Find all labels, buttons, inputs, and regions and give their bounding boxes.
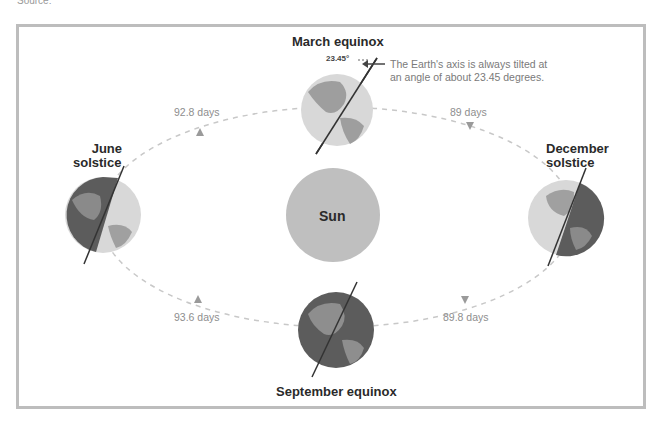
earth-december-solstice xyxy=(528,168,604,266)
interval-september-june: 93.6 days xyxy=(174,311,220,323)
tilt-note-line2: an angle of about 23.45 degrees. xyxy=(390,71,547,84)
label-march-equinox: March equinox xyxy=(292,34,384,49)
interval-december-september: 89.8 days xyxy=(443,311,489,323)
arrow-92-8 xyxy=(196,128,204,136)
label-december: December xyxy=(546,141,609,156)
interval-march-december: 89 days xyxy=(450,106,487,118)
tilt-note-line1: The Earth's axis is always tilted at xyxy=(390,58,547,71)
interval-june-march: 92.8 days xyxy=(174,106,220,118)
sun-label: Sun xyxy=(319,208,345,224)
arrow-89-8 xyxy=(461,296,469,304)
earth-march-equinox xyxy=(301,58,377,154)
tilt-note: The Earth's axis is always tilted at an … xyxy=(390,58,547,84)
arrow-93-6 xyxy=(194,295,202,303)
label-september-equinox: September equinox xyxy=(276,384,397,399)
label-solstice-december: solstice xyxy=(546,155,594,170)
arrow-89 xyxy=(466,122,474,130)
earth-september-equinox xyxy=(298,282,374,377)
label-june: June xyxy=(86,141,122,156)
label-solstice-june: solstice xyxy=(73,155,121,170)
earth-june-solstice xyxy=(65,166,141,264)
tilt-angle-label: 23.45° xyxy=(326,54,349,63)
